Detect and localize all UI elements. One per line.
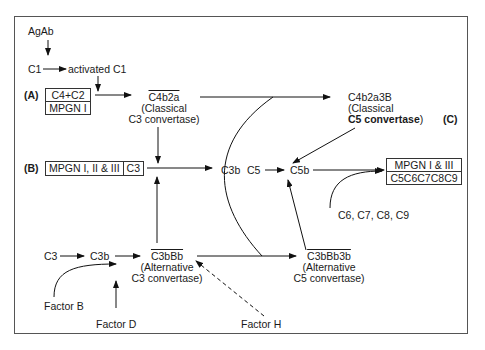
c6-c9-label: C6, C7, C8, C9 — [338, 209, 409, 221]
factor-h-label: Factor H — [241, 318, 281, 330]
box-b-right: C3 — [123, 162, 143, 175]
label-a: (A) — [24, 89, 39, 101]
c3bbb3b-note-2: C5 convertase) — [279, 272, 379, 284]
c4b2a3b-note-2: C5 convertase) — [348, 113, 423, 125]
agab-label: AgAb — [28, 25, 54, 37]
box-a-top: C4+C2 — [46, 89, 90, 101]
c5-convertase-bold: C5 convertase — [348, 113, 420, 125]
c5b-label: C5b — [290, 164, 309, 176]
c1-label: C1 — [28, 63, 41, 75]
label-b: (B) — [24, 162, 39, 174]
box-c4-c2: C4+C2 MPGN I — [45, 88, 91, 115]
c3bbb-note-2: C3 convertase) — [117, 272, 217, 284]
box-a-bottom: MPGN I — [46, 101, 90, 114]
box-mpgn-c3: MPGN I, II & III C3 — [45, 161, 144, 176]
c3-alt-label: C3 — [44, 250, 57, 262]
box-mac-top: MPGN I & III — [387, 159, 461, 171]
c4b2a-note-2: C3 convertase) — [114, 113, 214, 125]
box-mac: MPGN I & III C5C6C7C8C9 — [386, 158, 462, 185]
box-b-left: MPGN I, II & III — [46, 162, 123, 175]
c3b-alt-label: C3b — [90, 250, 109, 262]
activated-c1-label: activated C1 — [68, 63, 126, 75]
label-c: (C) — [443, 113, 458, 125]
c4b2a3b-note-2-end: ) — [420, 113, 424, 125]
box-mac-bottom: C5C6C7C8C9 — [387, 171, 461, 184]
factor-d-label: Factor D — [96, 318, 136, 330]
c5-label: C5 — [247, 164, 260, 176]
factor-b-label: Factor B — [44, 300, 84, 312]
c3b-mid-label: C3b — [221, 164, 240, 176]
